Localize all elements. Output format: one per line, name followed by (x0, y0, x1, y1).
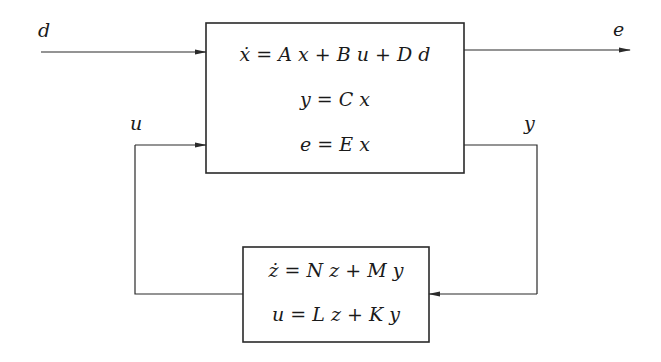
controller-output-equation: u = L z + K y (243, 303, 429, 325)
measurement-label: y (524, 112, 535, 134)
plant-state-equation: ẋ = A x + B u + D d (206, 43, 464, 65)
error-output-label: e (613, 18, 624, 40)
disturbance-label: d (38, 19, 50, 41)
plant-output-equation: y = C x (206, 88, 464, 110)
control-input-path (135, 145, 243, 294)
plant-error-equation: e = E x (206, 133, 464, 155)
control-input-label: u (130, 112, 142, 134)
measurement-path (464, 145, 537, 294)
controller-state-equation: ż = N z + M y (243, 259, 429, 281)
